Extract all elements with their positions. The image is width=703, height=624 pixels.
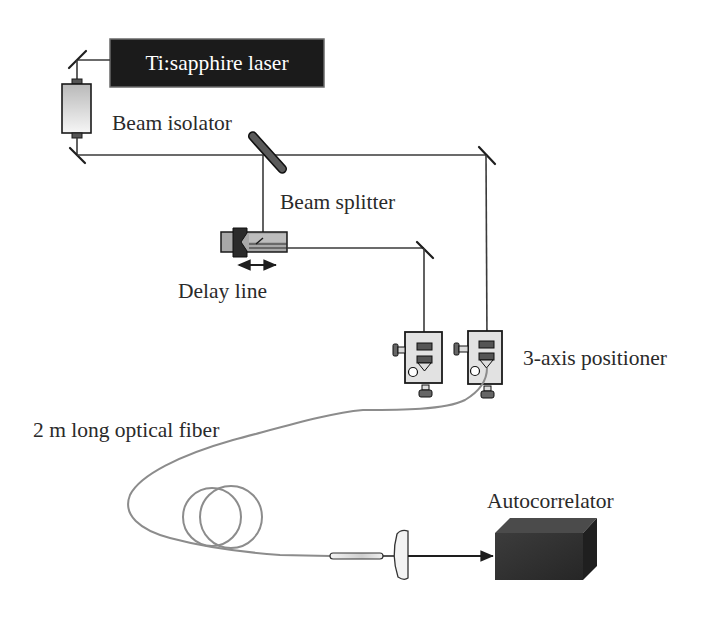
knob-icon	[393, 344, 398, 356]
optical-fiber	[128, 368, 487, 556]
lens-icon	[394, 530, 408, 579]
autocorrelator-box	[495, 518, 597, 580]
beam-isolator-icon	[62, 79, 91, 138]
fiber-connector-icon	[330, 553, 383, 559]
autocorrelator-label: Autocorrelator	[487, 489, 614, 513]
optical-setup-diagram: Ti:sapphire laser Beam isolator Beam spl…	[0, 0, 703, 624]
three-axis-positioner-left	[393, 332, 442, 397]
fiber-label: 2 m long optical fiber	[33, 418, 219, 442]
knob-icon	[454, 343, 459, 355]
knob-icon	[419, 390, 432, 397]
laser-label: Ti:sapphire laser	[145, 51, 288, 75]
isolator-label: Beam isolator	[112, 111, 232, 135]
three-axis-positioner-right	[454, 331, 502, 398]
delay-line-label: Delay line	[178, 279, 267, 303]
delay-line-stage	[221, 228, 287, 265]
positioner-label: 3-axis positioner	[523, 346, 667, 370]
knob-icon	[481, 391, 494, 398]
mirror-icon	[417, 242, 433, 258]
beam-splitter-icon	[247, 131, 288, 175]
splitter-label: Beam splitter	[280, 190, 395, 214]
ti-sapphire-laser: Ti:sapphire laser	[110, 39, 324, 87]
fiber-coil-icon	[183, 488, 241, 546]
beam-segment	[486, 155, 487, 341]
